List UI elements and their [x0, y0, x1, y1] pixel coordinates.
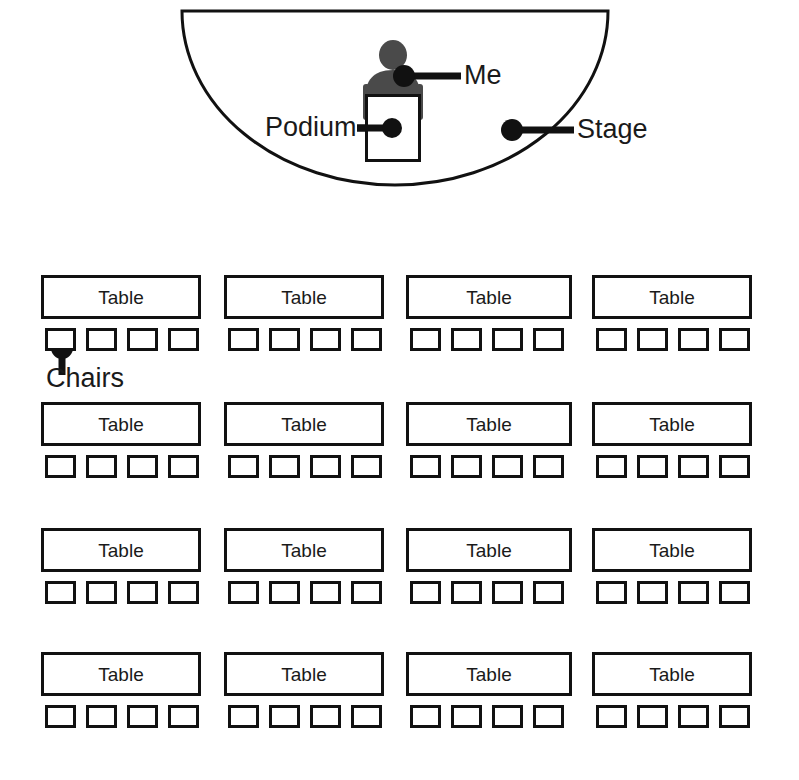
chair[interactable] [269, 455, 300, 478]
table-label: Table [281, 288, 326, 307]
chair[interactable] [596, 581, 627, 604]
chair[interactable] [678, 581, 709, 604]
chair[interactable] [228, 455, 259, 478]
table-box[interactable]: Table [224, 275, 384, 319]
chair[interactable] [719, 328, 750, 351]
chair[interactable] [678, 705, 709, 728]
chair[interactable] [168, 581, 199, 604]
chair[interactable] [410, 328, 441, 351]
chair[interactable] [45, 581, 76, 604]
table-label: Table [98, 541, 143, 560]
chair[interactable] [637, 328, 668, 351]
chair[interactable] [86, 581, 117, 604]
table-group: Table [224, 402, 384, 446]
me-label: Me [464, 62, 502, 89]
chair[interactable] [127, 581, 158, 604]
table-label: Table [281, 665, 326, 684]
chair[interactable] [351, 581, 382, 604]
table-box[interactable]: Table [592, 402, 752, 446]
chair[interactable] [492, 581, 523, 604]
chair[interactable] [86, 455, 117, 478]
chair[interactable] [351, 328, 382, 351]
chair[interactable] [719, 455, 750, 478]
chair[interactable] [451, 455, 482, 478]
podium-box [365, 94, 421, 162]
chair[interactable] [451, 705, 482, 728]
chair[interactable] [533, 705, 564, 728]
chair[interactable] [269, 581, 300, 604]
table-box[interactable]: Table [406, 402, 572, 446]
chair[interactable] [168, 328, 199, 351]
chair[interactable] [492, 705, 523, 728]
table-group: Table [41, 652, 201, 696]
chair[interactable] [637, 455, 668, 478]
chair[interactable] [269, 328, 300, 351]
chair[interactable] [45, 455, 76, 478]
chair[interactable] [637, 705, 668, 728]
chair[interactable] [596, 455, 627, 478]
chair[interactable] [310, 705, 341, 728]
table-group: Table [224, 652, 384, 696]
chair[interactable] [533, 328, 564, 351]
table-box[interactable]: Table [41, 275, 201, 319]
chair[interactable] [596, 328, 627, 351]
table-box[interactable]: Table [224, 402, 384, 446]
chair-strip [228, 455, 382, 478]
chair[interactable] [168, 455, 199, 478]
table-group: Table [592, 652, 752, 696]
chair[interactable] [533, 581, 564, 604]
chair-strip [228, 581, 382, 604]
chair[interactable] [228, 705, 259, 728]
chair[interactable] [310, 328, 341, 351]
chair[interactable] [492, 328, 523, 351]
table-box[interactable]: Table [592, 528, 752, 572]
chair[interactable] [127, 328, 158, 351]
table-box[interactable]: Table [41, 402, 201, 446]
table-box[interactable]: Table [406, 275, 572, 319]
chair[interactable] [533, 455, 564, 478]
table-box[interactable]: Table [406, 652, 572, 696]
chair[interactable] [596, 705, 627, 728]
table-box[interactable]: Table [224, 528, 384, 572]
chair[interactable] [451, 581, 482, 604]
chair[interactable] [719, 705, 750, 728]
table-box[interactable]: Table [224, 652, 384, 696]
chair[interactable] [45, 328, 76, 351]
table-box[interactable]: Table [406, 528, 572, 572]
chair[interactable] [410, 455, 441, 478]
chair[interactable] [310, 581, 341, 604]
table-box[interactable]: Table [41, 528, 201, 572]
seating-grid: Chairs TableTableTableTableTableTableTab… [0, 265, 799, 780]
chair[interactable] [45, 705, 76, 728]
table-label: Table [98, 665, 143, 684]
table-label: Table [281, 415, 326, 434]
chair[interactable] [127, 455, 158, 478]
chair[interactable] [410, 581, 441, 604]
chair[interactable] [678, 328, 709, 351]
table-group: Table [406, 402, 572, 446]
chair[interactable] [127, 705, 158, 728]
chair[interactable] [228, 328, 259, 351]
table-label: Table [649, 541, 694, 560]
chair[interactable] [269, 705, 300, 728]
chair[interactable] [492, 455, 523, 478]
chair[interactable] [310, 455, 341, 478]
chair[interactable] [86, 705, 117, 728]
stage-area: Podium Me Stage [0, 0, 799, 260]
chair[interactable] [228, 581, 259, 604]
chair[interactable] [678, 455, 709, 478]
chair[interactable] [351, 705, 382, 728]
table-box[interactable]: Table [41, 652, 201, 696]
table-group: Table [592, 275, 752, 319]
table-box[interactable]: Table [592, 275, 752, 319]
chair[interactable] [351, 455, 382, 478]
chair[interactable] [719, 581, 750, 604]
chair[interactable] [451, 328, 482, 351]
chair[interactable] [637, 581, 668, 604]
table-label: Table [466, 665, 511, 684]
podium-label: Podium [265, 114, 357, 141]
chair[interactable] [168, 705, 199, 728]
chair[interactable] [86, 328, 117, 351]
table-box[interactable]: Table [592, 652, 752, 696]
chair[interactable] [410, 705, 441, 728]
